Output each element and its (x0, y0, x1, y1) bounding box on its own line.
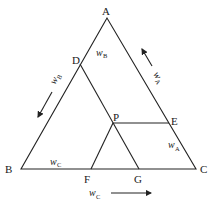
svg-text:C: C (57, 161, 61, 168)
ternary-diagram: A B C D P E F G w B w B w A w A w C w C (0, 0, 217, 203)
label-wC-bottom: w C (89, 187, 100, 200)
point-label-D: D (72, 54, 80, 66)
point-label-E: E (171, 115, 178, 127)
point-label-P: P (113, 111, 119, 123)
point-label-G: G (134, 173, 142, 185)
arrow-wB-icon (38, 92, 52, 117)
label-wB-side: w B (47, 70, 63, 86)
svg-text:w: w (96, 47, 103, 58)
svg-text:C: C (96, 193, 100, 200)
point-label-B: B (5, 163, 12, 175)
svg-text:B: B (103, 52, 108, 59)
svg-text:w: w (89, 187, 96, 198)
label-wA-side: w A (150, 70, 166, 86)
svg-text:w: w (50, 156, 57, 167)
label-wA-inner: w A (168, 139, 180, 152)
point-label-C: C (200, 163, 207, 175)
line-DG (80, 64, 139, 169)
line-PF (91, 123, 113, 169)
label-wC-inner: w C (50, 156, 61, 168)
label-wB-inner: w B (96, 47, 108, 59)
svg-text:w: w (168, 139, 175, 150)
svg-text:A: A (175, 145, 180, 152)
point-label-F: F (84, 173, 90, 185)
point-label-A: A (102, 5, 110, 17)
arrow-wA-icon (142, 49, 152, 66)
